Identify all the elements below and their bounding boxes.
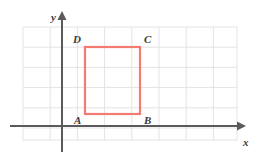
vertex-label-a: A (73, 114, 81, 126)
axes-group (10, 11, 246, 152)
vertex-label-b: B (143, 114, 151, 126)
x-axis-label: x (242, 136, 249, 148)
coordinate-plane-figure: ABCD x y (0, 0, 265, 161)
grid-lines (23, 27, 237, 140)
y-axis-label: y (49, 11, 56, 23)
y-axis-arrowhead (58, 11, 67, 20)
vertex-label-c: C (144, 33, 152, 45)
x-axis-arrowhead (237, 122, 246, 131)
vertex-label-d: D (72, 33, 81, 45)
geometry-diagram-svg: ABCD x y (0, 0, 265, 161)
